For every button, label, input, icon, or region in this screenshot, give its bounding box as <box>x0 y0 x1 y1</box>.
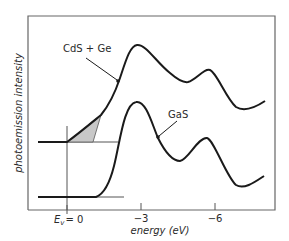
spectrum-chart: CdS + Ge GaS photoemission intensity Ev=… <box>0 0 289 241</box>
arrow-cds-ge <box>86 58 117 80</box>
y-axis-label: photoemission intensity <box>13 52 24 174</box>
arrow-cds-ge-tip <box>116 79 120 83</box>
curve-gas <box>38 102 264 197</box>
curve-cds-ge <box>38 45 265 142</box>
tick-label-m3: −3 <box>134 213 149 224</box>
arrow-gas-tip <box>156 135 160 139</box>
arrow-gas <box>159 121 177 136</box>
x-axis-label: energy (eV) <box>131 225 190 236</box>
label-gas: GaS <box>168 109 188 120</box>
label-cds-ge: CdS + Ge <box>63 43 111 54</box>
tick-label-ev0: Ev= 0 <box>54 214 83 227</box>
tick-label-m6: −6 <box>208 213 223 224</box>
